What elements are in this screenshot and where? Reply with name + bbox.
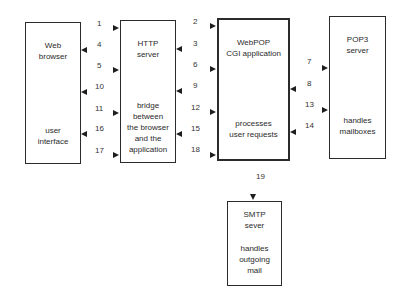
arrow-label-13: 13 [305, 100, 314, 109]
arrow-right-icon [210, 66, 216, 72]
arrow-left-icon [81, 47, 87, 53]
arrow-label-8: 8 [307, 79, 311, 88]
web-browser-desc: user interface [26, 125, 80, 147]
arrow-left-icon [81, 89, 87, 95]
arrow-label-7: 7 [307, 57, 311, 66]
arrow-label-4: 4 [97, 40, 101, 49]
arrow-label-19: 19 [256, 172, 265, 181]
arrow-left-icon [176, 131, 182, 137]
arrow-left-icon [176, 88, 182, 94]
smtp-server-box: SMTP sever handles outgoing mail [227, 201, 282, 286]
arrow-label-1: 1 [97, 19, 101, 28]
arrow-right-icon [210, 109, 216, 115]
arrow-label-12: 12 [191, 103, 200, 112]
http-server-box: HTTP server bridge between the browser a… [120, 20, 176, 163]
arrow-label-3: 3 [193, 39, 197, 48]
arrow-left-icon [176, 46, 182, 52]
pop3-desc: handles mailboxes [330, 115, 385, 137]
pop3-server-box: POP3 server handles mailboxes [329, 16, 386, 159]
smtp-desc: handles outgoing mail [228, 243, 281, 276]
arrow-label-10: 10 [95, 82, 104, 91]
web-browser-box: Web browser user interface [25, 22, 81, 164]
web-browser-title: Web browser [26, 40, 80, 62]
arrow-label-17: 17 [95, 146, 104, 155]
arrow-label-6: 6 [193, 60, 197, 69]
smtp-title: SMTP sever [228, 209, 281, 231]
arrow-label-18: 18 [191, 145, 200, 154]
arrow-right-icon [113, 110, 119, 116]
arrow-right-icon [113, 67, 119, 73]
arrow-left-icon [290, 86, 296, 92]
arrow-label-15: 15 [191, 124, 200, 133]
arrow-label-2: 2 [193, 17, 197, 26]
arrow-right-icon [210, 152, 216, 158]
http-server-desc: bridge between the browser and the appli… [121, 100, 175, 155]
arrow-right-icon [322, 107, 328, 113]
arrow-right-icon [113, 152, 119, 158]
webpop-desc: processes user requests [219, 118, 288, 140]
pop3-title: POP3 server [330, 34, 385, 56]
webpop-cgi-box: WebPOP CGI application processes user re… [217, 18, 290, 161]
arrow-label-9: 9 [193, 81, 197, 90]
arrow-right-icon [322, 65, 328, 71]
webpop-title: WebPOP CGI application [219, 37, 288, 59]
arrow-left-icon [290, 129, 296, 135]
arrow-label-11: 11 [95, 104, 103, 113]
http-server-title: HTTP server [121, 38, 175, 60]
arrow-label-5: 5 [97, 61, 101, 70]
arrow-left-icon [81, 131, 87, 137]
arrow-label-16: 16 [95, 124, 104, 133]
arrow-down-icon [250, 194, 256, 200]
arrow-right-icon [113, 25, 119, 31]
arrow-label-14: 14 [305, 121, 314, 130]
arrow-right-icon [210, 23, 216, 29]
